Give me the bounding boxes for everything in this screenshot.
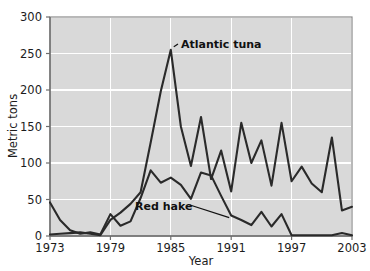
y-tick-label: 200: [20, 83, 42, 97]
y-tick-label: 300: [20, 10, 42, 24]
x-tick-label: 1985: [156, 241, 185, 255]
y-tick-label: 150: [20, 120, 42, 134]
annotation-label-red-hake: Red hake: [135, 200, 192, 213]
x-tick-label: 1973: [35, 241, 64, 255]
y-axis-title: Metric tons: [6, 94, 20, 158]
fisheries-landings-line-chart: 050100150200250300 197319791985199119972…: [0, 0, 370, 271]
x-tick-label: 1997: [277, 241, 306, 255]
y-tick-label: 100: [20, 156, 42, 170]
y-tick-label: 250: [20, 47, 42, 61]
x-tick-label: 2003: [337, 241, 366, 255]
x-tick-label: 1991: [217, 241, 246, 255]
annotation-label-atlantic-tuna: Atlantic tuna: [181, 38, 262, 51]
x-tick-label: 1979: [96, 241, 125, 255]
y-tick-label: 50: [27, 193, 42, 207]
chart-container: 050100150200250300 197319791985199119972…: [0, 0, 370, 271]
x-axis-title: Year: [188, 254, 214, 268]
